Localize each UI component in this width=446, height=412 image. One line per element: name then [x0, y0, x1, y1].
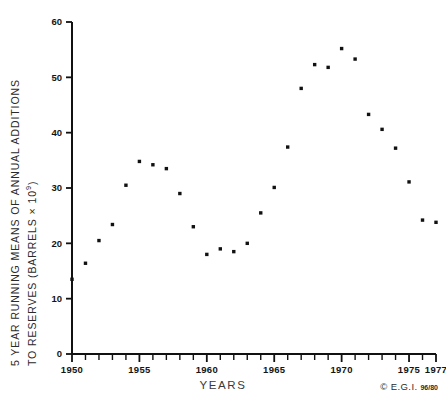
x-tick-label: 1950 — [61, 364, 83, 375]
data-point — [353, 57, 356, 60]
data-point — [313, 63, 316, 66]
scatter-plot-canvas: 0102030405060 19501955196019651970197519… — [0, 0, 446, 412]
y-tick-label: 20 — [51, 238, 62, 249]
axis-layer — [72, 22, 436, 354]
x-tick-label: 1975 — [398, 364, 421, 375]
data-point — [286, 145, 289, 148]
y-tick-layer: 0102030405060 — [51, 16, 72, 359]
copyright-notice: © E.G.I.96/80 — [380, 381, 438, 392]
data-point — [259, 211, 262, 214]
data-point — [434, 221, 437, 224]
copyright-code: 96/80 — [420, 384, 438, 391]
data-point — [151, 163, 154, 166]
data-point — [394, 146, 397, 149]
data-point — [111, 223, 114, 226]
x-tick-layer: 1950195519601965197019751977 — [61, 354, 446, 375]
data-point-layer — [70, 47, 437, 281]
data-point — [205, 253, 208, 256]
y-tick-label: 0 — [57, 348, 62, 359]
data-point — [124, 184, 127, 187]
data-point — [380, 128, 383, 131]
x-tick-label: 1955 — [128, 364, 151, 375]
data-point — [178, 192, 181, 195]
data-point — [299, 87, 302, 90]
data-point — [421, 218, 424, 221]
data-point — [97, 239, 100, 242]
x-axis-label: YEARS — [0, 379, 446, 391]
x-tick-label: 1977 — [425, 364, 446, 375]
x-tick-label: 1970 — [330, 364, 352, 375]
data-point — [219, 247, 222, 250]
data-point — [273, 186, 276, 189]
x-tick-label: 1960 — [196, 364, 218, 375]
data-point — [232, 250, 235, 253]
x-tick-label: 1965 — [263, 364, 286, 375]
copyright-icon: © — [380, 381, 387, 392]
data-point — [407, 180, 410, 183]
data-point — [367, 113, 370, 116]
copyright-owner: E.G.I. — [391, 381, 418, 392]
y-tick-label: 60 — [51, 16, 62, 27]
data-point — [138, 160, 141, 163]
data-point — [192, 225, 195, 228]
data-point — [70, 278, 73, 281]
y-tick-label: 10 — [51, 293, 62, 304]
y-tick-label: 40 — [51, 127, 62, 138]
y-tick-label: 50 — [51, 72, 62, 83]
data-point — [84, 262, 87, 265]
data-point — [340, 47, 343, 50]
y-tick-label: 30 — [51, 182, 62, 193]
data-point — [246, 242, 249, 245]
chart-figure: 5 YEAR RUNNING MEANS OF ANNUAL ADDITIONS… — [0, 0, 446, 412]
data-point — [326, 66, 329, 69]
data-point — [165, 167, 168, 170]
